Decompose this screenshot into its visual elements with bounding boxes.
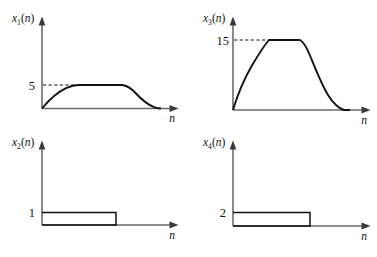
- xlabel-x1: n: [169, 112, 175, 124]
- x-axis-arrowhead-x2: [170, 222, 179, 229]
- curve-x3: [233, 40, 350, 110]
- x-axis-arrowhead-x1: [170, 105, 179, 112]
- axis-title-closeparen-x3: ): [222, 12, 226, 25]
- panel-x2: x2(n) 1 n: [11, 136, 179, 241]
- axis-title-closeparen-x4: ): [222, 136, 226, 149]
- panel-x1: x1(n) 5 n: [11, 12, 179, 124]
- y-axis-arrowhead-x3: [230, 17, 237, 26]
- pulse-x4: [233, 213, 310, 227]
- value-label-x3: 15: [217, 34, 230, 48]
- signal-plots-figure: x1(n) 5 n x3(n) 15 n x2(n) 1: [0, 0, 377, 257]
- curve-x1: [42, 85, 161, 109]
- y-axis-arrowhead-x4: [230, 141, 237, 150]
- value-label-x1: 5: [29, 79, 35, 93]
- value-label-x2: 1: [29, 206, 35, 220]
- y-axis-arrowhead-x2: [39, 141, 46, 150]
- figure-root: x1(n) 5 n x3(n) 15 n x2(n) 1: [0, 0, 377, 257]
- pulse-x2: [42, 213, 116, 226]
- panel-x3: x3(n) 15 n: [202, 12, 371, 126]
- axis-title-x4: x4(n): [202, 136, 226, 151]
- x-axis-arrowhead-x3: [362, 107, 371, 114]
- y-axis-arrowhead-x1: [39, 17, 46, 26]
- axis-title-x1: x1(n): [11, 12, 35, 27]
- value-label-x4: 2: [220, 206, 226, 220]
- axis-title-x2: x2(n): [11, 136, 35, 151]
- xlabel-x3: n: [361, 114, 367, 126]
- axis-title-closeparen-x1: ): [31, 12, 35, 25]
- axis-title-closeparen-x2: ): [31, 136, 35, 149]
- axis-title-x3: x3(n): [202, 12, 226, 27]
- x-axis-arrowhead-x4: [362, 223, 371, 230]
- xlabel-x4: n: [361, 230, 367, 242]
- xlabel-x2: n: [169, 229, 175, 241]
- panel-x4: x4(n) 2 n: [202, 136, 371, 242]
